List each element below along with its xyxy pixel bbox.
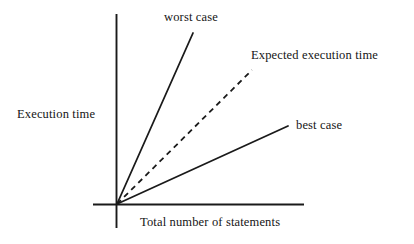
best-case-line xyxy=(117,126,288,204)
figure-canvas: Execution time Total number of statement… xyxy=(0,0,414,244)
y-axis-label: Execution time xyxy=(17,107,95,121)
best-case-label: best case xyxy=(296,118,342,132)
diagram-svg xyxy=(0,0,414,244)
expected-execution-time-label: Expected execution time xyxy=(251,48,378,62)
worst-case-label: worst case xyxy=(164,10,218,24)
x-axis-label: Total number of statements xyxy=(140,215,280,229)
worst-case-line xyxy=(117,33,193,204)
expected-execution-time-line xyxy=(117,70,252,204)
